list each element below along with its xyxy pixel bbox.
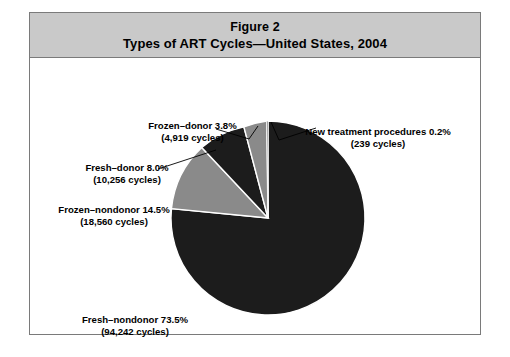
figure-title-line1: Figure 2 <box>230 20 279 35</box>
callout-frozen-donor-line1: Frozen–donor 3.8% <box>148 120 237 131</box>
figure-frame: Figure 2 Types of ART Cycles—United Stat… <box>29 12 481 335</box>
figure-title-line2: Types of ART Cycles—United States, 2004 <box>123 36 387 51</box>
callout-fresh-nondonor: Fresh–nondonor 73.5% (94,242 cycles) <box>60 314 210 337</box>
callout-frozen-donor: Frozen–donor 3.8% (4,919 cycles) <box>130 120 255 143</box>
callout-fresh-nondonor-line2: (94,242 cycles) <box>60 326 210 338</box>
callout-frozen-donor-line2: (4,919 cycles) <box>130 132 255 144</box>
callout-frozen-nondonor: Frozen–nondonor 14.5% (18,560 cycles) <box>39 204 189 227</box>
callout-frozen-nondonor-line1: Frozen–nondonor 14.5% <box>58 204 169 215</box>
callout-fresh-donor-line2: (10,256 cycles) <box>63 174 191 186</box>
callout-fresh-nondonor-line1: Fresh–nondonor 73.5% <box>82 314 188 325</box>
callout-new-treatment-line1: New treatment procedures 0.2% <box>305 126 451 137</box>
callout-fresh-donor-line1: Fresh–donor 8.0% <box>85 162 168 173</box>
figure-header: Figure 2 Types of ART Cycles—United Stat… <box>30 13 480 58</box>
chart-body: Frozen–donor 3.8% (4,919 cycles) New tre… <box>30 58 480 334</box>
callout-fresh-donor: Fresh–donor 8.0% (10,256 cycles) <box>63 162 191 185</box>
callout-new-treatment-line2: (239 cycles) <box>288 138 468 150</box>
pie-chart <box>30 58 480 335</box>
callout-new-treatment: New treatment procedures 0.2% (239 cycle… <box>288 126 468 149</box>
callout-frozen-nondonor-line2: (18,560 cycles) <box>39 216 189 228</box>
